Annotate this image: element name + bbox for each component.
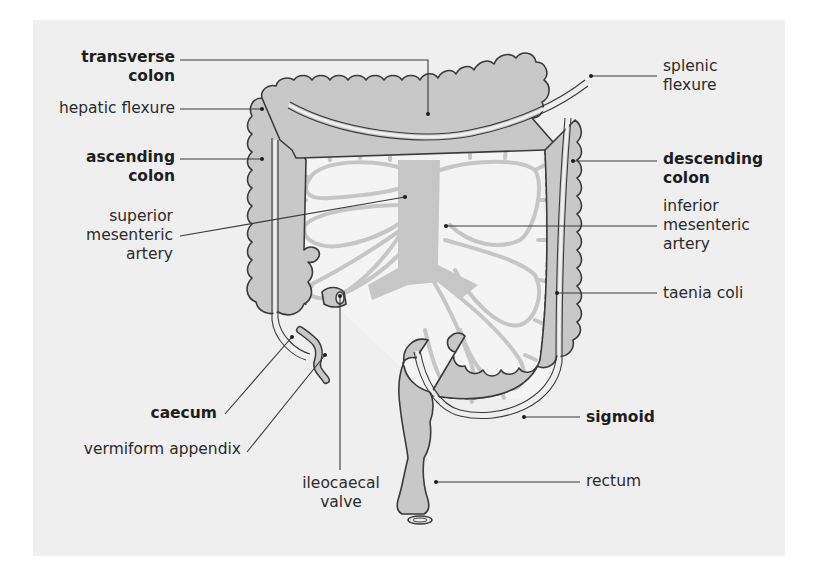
label-rectum: rectum — [586, 472, 641, 491]
ileum-stub — [322, 288, 346, 308]
label-taenia-coli: taenia coli — [663, 284, 743, 303]
label-ascending-colon: ascending colon — [86, 148, 175, 186]
label-splenic-flexure: splenic flexure — [663, 57, 717, 95]
label-transverse-colon: transverse colon — [81, 48, 175, 86]
label-ileocaecal-valve: ileocaecal valve — [298, 474, 384, 512]
label-sigmoid: sigmoid — [586, 408, 655, 427]
label-hepatic-flexure: hepatic flexure — [59, 99, 175, 118]
label-descending-colon: descending colon — [663, 150, 763, 188]
label-caecum: caecum — [150, 404, 217, 423]
label-superior-mesenteric-artery: superior mesenteric artery — [86, 207, 173, 264]
label-inferior-mesenteric-artery: inferior mesenteric artery — [663, 197, 750, 254]
label-vermiform-appendix: vermiform appendix — [84, 440, 241, 459]
transverse-colon-shape — [262, 53, 560, 158]
